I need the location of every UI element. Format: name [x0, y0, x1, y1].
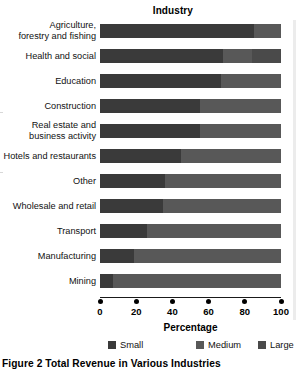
bar-segment-small: [100, 124, 200, 138]
bar-row: [100, 24, 281, 38]
y-axis-label: Construction: [0, 101, 96, 112]
bar-row: [100, 174, 281, 188]
x-axis-title: Percentage: [100, 322, 281, 333]
y-axis-label: Other: [0, 176, 96, 187]
bar-row: [100, 249, 281, 263]
y-axis-label: Real estate andbusiness activity: [0, 120, 96, 141]
y-axis-label-line: Wholesale and retail: [0, 201, 96, 212]
x-tick-marker: [206, 299, 211, 304]
x-tick-marker: [98, 299, 103, 304]
bar-row: [100, 124, 281, 138]
y-axis-tick-labels: Agriculture,forestry and fishingHealth a…: [0, 22, 96, 297]
y-axis-label-line: Mining: [0, 276, 96, 287]
bar-row: [100, 274, 281, 288]
x-tick-marker: [134, 299, 139, 304]
bar-segment-small: [100, 74, 221, 88]
bar-row: [100, 49, 281, 63]
x-tick-label: 0: [97, 306, 102, 317]
y-axis-label-line: Manufacturing: [0, 251, 96, 262]
bar-segment-small: [100, 49, 223, 63]
bar-segment-medium: [254, 24, 281, 38]
bar-segment-medium: [113, 274, 281, 288]
bar-segment-small: [100, 174, 165, 188]
bar-segment-medium: [221, 74, 281, 88]
y-axis-label-line: forestry and fishing: [0, 31, 96, 42]
bar-segment-medium: [147, 224, 281, 238]
x-tick-marker: [170, 299, 175, 304]
legend-item-large[interactable]: Large: [258, 340, 294, 350]
bar-segment-medium: [163, 199, 281, 213]
bar-segment-medium: [200, 99, 281, 113]
bar-segment-medium: [223, 49, 252, 63]
y-axis-label: Hotels and restaurants: [0, 151, 96, 162]
bar-segment-small: [100, 149, 181, 163]
x-tick-marker: [279, 299, 284, 304]
bar-segment-medium: [200, 124, 281, 138]
bar-segment-medium: [181, 149, 281, 163]
y-axis-label: Manufacturing: [0, 251, 96, 262]
y-axis-label-line: Construction: [0, 101, 96, 112]
bar-row: [100, 99, 281, 113]
legend-swatch-icon: [108, 341, 116, 349]
y-axis-label: Wholesale and retail: [0, 201, 96, 212]
x-tick-label: 80: [240, 306, 251, 317]
bar-segment-small: [100, 24, 254, 38]
y-axis-label: Transport: [0, 226, 96, 237]
y-axis-label-line: Agriculture,: [0, 20, 96, 31]
legend-label: Medium: [208, 340, 241, 350]
bar-segment-small: [100, 274, 113, 288]
bar-segment-small: [100, 249, 134, 263]
figure-caption: Figure 2 Total Revenue in Various Indust…: [2, 358, 221, 369]
bar-segment-large: [252, 49, 281, 63]
y-axis-label-line: Education: [0, 76, 96, 87]
bar-row: [100, 224, 281, 238]
y-axis-label-line: business activity: [0, 131, 96, 142]
x-tick-label: 60: [203, 306, 214, 317]
y-axis-title: Industry: [0, 5, 193, 16]
bar-row: [100, 74, 281, 88]
bar-row: [100, 149, 281, 163]
chart-legend: SmallMediumLarge: [98, 340, 288, 354]
scan-artifact-right: [293, 20, 296, 320]
bar-segment-medium: [134, 249, 281, 263]
x-tick-marker: [242, 299, 247, 304]
bar-segment-medium: [165, 174, 281, 188]
x-tick-label: 40: [167, 306, 178, 317]
y-axis-label: Agriculture,forestry and fishing: [0, 20, 96, 41]
x-tick-label: 20: [131, 306, 142, 317]
legend-label: Small: [120, 340, 143, 350]
legend-item-small[interactable]: Small: [108, 340, 143, 350]
y-axis-label-line: Real estate and: [0, 120, 96, 131]
legend-item-medium[interactable]: Medium: [196, 340, 241, 350]
legend-label: Large: [270, 340, 294, 350]
bar-segment-small: [100, 99, 200, 113]
x-tick-label: 100: [273, 306, 289, 317]
figure-container: Industry Agriculture,forestry and fishin…: [0, 0, 296, 372]
y-axis-label-line: Transport: [0, 226, 96, 237]
bar-row: [100, 199, 281, 213]
bar-segment-small: [100, 224, 147, 238]
y-axis-label-line: Hotels and restaurants: [0, 151, 96, 162]
y-axis-label: Mining: [0, 276, 96, 287]
y-axis-label-line: Other: [0, 176, 96, 187]
legend-swatch-icon: [258, 341, 266, 349]
plot-area: [100, 22, 281, 297]
y-axis-label: Education: [0, 76, 96, 87]
y-axis-label-line: Health and social: [0, 51, 96, 62]
legend-swatch-icon: [196, 341, 204, 349]
bar-segment-small: [100, 199, 163, 213]
y-axis-label: Health and social: [0, 51, 96, 62]
x-axis-line: [100, 297, 281, 298]
